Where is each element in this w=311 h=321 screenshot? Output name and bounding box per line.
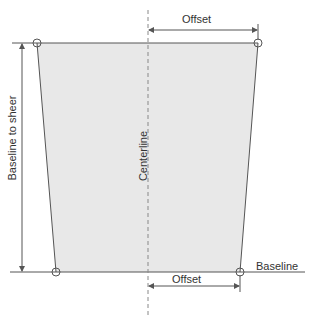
offset-bottom-label: Offset: [172, 273, 201, 285]
hull-section-diagram: Offset Offset Baseline Baseline to sheer…: [0, 0, 311, 321]
baseline-to-sheer-label: Baseline to sheer: [6, 88, 18, 188]
baseline-label: Baseline: [256, 260, 298, 272]
centerline-label: Centerline: [137, 121, 149, 191]
offset-top-label: Offset: [182, 13, 211, 25]
diagram-graphics: [0, 0, 311, 321]
